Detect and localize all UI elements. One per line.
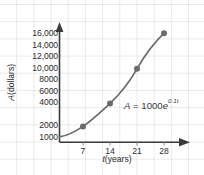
exponential-curve [60, 33, 165, 137]
data-point-t14 [107, 100, 113, 106]
x-tick-label-28: 28 [159, 147, 169, 156]
x-axis-arrowhead [179, 138, 190, 146]
y-tick-label-10000: 10,000 [32, 64, 58, 73]
data-point-t21 [134, 66, 140, 72]
y-axis-symbol: A [6, 95, 16, 101]
x-tick-label-7: 7 [81, 147, 86, 156]
x-tick-label-21: 21 [132, 147, 142, 156]
equation-exponent: 0.1t [168, 97, 178, 104]
exponential-growth-chart: 16,000 14,000 12,000 10,000 8000 6000 40… [0, 0, 204, 175]
y-tick-label-8000: 8000 [39, 75, 58, 84]
y-tick-label-14000: 14,000 [32, 41, 58, 50]
data-point-t28 [161, 30, 167, 36]
y-tick-label-12000: 12,000 [32, 52, 58, 61]
plot-area-svg [0, 0, 204, 175]
equation-annotation: A = 1000e0.1t [124, 100, 178, 111]
y-tick-label-1000: 1000 [39, 133, 58, 142]
x-axis-title: t(years) [102, 155, 131, 164]
equation-operator: = 1000 [130, 100, 162, 111]
y-axis-title: A(dollars) [7, 47, 16, 117]
x-axis-unit: (years) [105, 154, 132, 164]
x-axis [60, 138, 191, 146]
y-tick-label-16000: 16,000 [32, 29, 58, 38]
y-axis-unit: (dollars) [6, 64, 16, 95]
y-tick-label-4000: 4000 [39, 98, 58, 107]
y-tick-label-2000: 2000 [39, 121, 58, 130]
data-point-t7 [80, 123, 86, 129]
y-tick-label-6000: 6000 [39, 87, 58, 96]
